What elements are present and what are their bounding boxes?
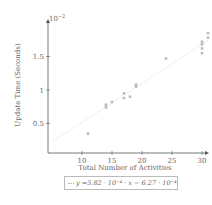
y-scale-label: 10−2 — [49, 13, 65, 23]
data-point — [129, 95, 132, 98]
tick-labels: 10152025300.511.5 — [33, 53, 207, 165]
data-point — [201, 43, 204, 46]
data-point — [165, 57, 168, 60]
data-point — [123, 92, 126, 95]
data-point — [207, 36, 210, 39]
data-point — [105, 103, 108, 106]
data-point — [201, 40, 204, 43]
y-axis-label: Update Time (Seconds) — [14, 43, 22, 127]
legend: y =5.82 · 10⁻⁴ · x − 6.27 · 10⁻⁴ — [64, 176, 178, 190]
data-point — [87, 132, 90, 135]
x-tick-label: 30 — [198, 157, 207, 165]
x-axis-label: Total Number of Activities — [78, 164, 172, 172]
data-point — [201, 52, 204, 55]
axes — [46, 19, 209, 155]
data-point — [123, 97, 126, 100]
scatter-chart: 10152025300.511.5 Total Number of Activi… — [0, 0, 212, 205]
data-point — [135, 83, 138, 86]
data-point — [201, 47, 204, 50]
y-tick-label: 0.5 — [33, 120, 44, 128]
data-point — [111, 101, 114, 104]
legend-line-marker — [68, 183, 74, 184]
legend-label: y =5.82 · 10⁻⁴ · x − 6.27 · 10⁻⁴ — [76, 179, 177, 187]
data-point — [207, 32, 210, 35]
trend-line-path — [52, 40, 208, 141]
y-tick-label: 1.5 — [33, 53, 44, 61]
x-axis-arrow-icon — [205, 151, 209, 155]
trend-line — [52, 40, 208, 141]
y-tick-label: 1 — [40, 87, 44, 95]
data-points — [87, 32, 210, 135]
data-point — [105, 106, 108, 109]
